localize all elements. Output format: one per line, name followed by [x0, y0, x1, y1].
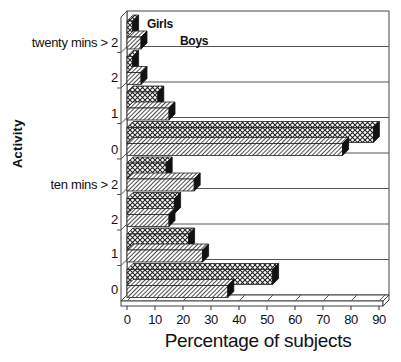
category-label: 0 — [111, 142, 118, 157]
legend-girls: Girls — [147, 17, 173, 31]
x-tick-label: 30 — [204, 312, 217, 327]
bar-boys — [127, 280, 234, 298]
x-tick-label: 80 — [344, 312, 357, 327]
category-label: 1 — [111, 246, 118, 261]
bar-boys — [127, 209, 175, 227]
category-label: 0 — [111, 282, 118, 297]
x-tick-label: 60 — [288, 312, 301, 327]
category-label: 2 — [111, 70, 118, 85]
category-label: twenty mins > 2 — [32, 35, 118, 50]
y-axis-title: Activity — [10, 119, 25, 168]
bar-boys — [127, 173, 200, 191]
bar-boys — [127, 102, 175, 120]
x-axis-title: Percentage of subjects — [0, 330, 401, 352]
bar-boys — [127, 67, 147, 85]
x-tick-label: 90 — [372, 312, 385, 327]
bar-boys — [127, 244, 209, 262]
x-tick-label: 10 — [148, 312, 161, 327]
x-tick-label: 0 — [124, 312, 131, 327]
category-label: ten mins > 2 — [50, 177, 118, 192]
bar-boys — [127, 138, 349, 156]
x-tick-label: 40 — [232, 312, 245, 327]
category-label: 2 — [111, 212, 118, 227]
legend-boys: Boys — [180, 34, 208, 48]
bar-boys — [127, 31, 147, 49]
bar-chart: Activity twenty mins > 2 2 1 0 ten mins … — [0, 0, 401, 362]
x-tick-label: 70 — [316, 312, 329, 327]
x-tick-label: 20 — [176, 312, 189, 327]
x-tick-label: 50 — [260, 312, 273, 327]
category-label: 1 — [111, 106, 118, 121]
